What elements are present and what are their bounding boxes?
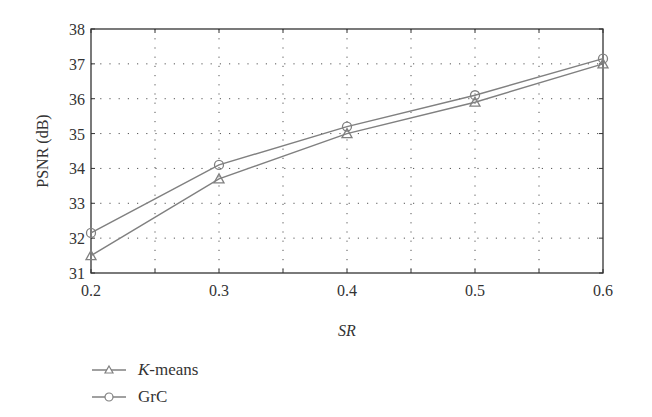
x-tick-label: 0.5 [465, 282, 485, 299]
series-grc [87, 54, 608, 237]
triangle-marker-icon [90, 363, 130, 377]
axis-ticks: 0.20.30.40.50.63132333435363738 [69, 21, 613, 299]
line-chart: 0.20.30.40.50.63132333435363738 SR PSNR … [0, 0, 652, 350]
legend-label-kmeans: K-means [138, 360, 198, 380]
legend: K-means GrC [90, 356, 198, 410]
plot-frame [91, 29, 603, 273]
x-tick-label: 0.6 [593, 282, 613, 299]
legend-item-grc: GrC [90, 383, 198, 410]
x-tick-label: 0.2 [81, 282, 101, 299]
y-tick-label: 35 [69, 126, 85, 143]
y-tick-label: 36 [69, 91, 85, 108]
y-axis-label: PSNR (dB) [34, 114, 52, 187]
legend-label-grc: GrC [138, 387, 167, 407]
x-tick-label: 0.4 [337, 282, 357, 299]
y-tick-label: 33 [69, 195, 85, 212]
y-tick-label: 37 [69, 56, 85, 73]
x-axis-label: SR [338, 322, 356, 339]
x-tick-label: 0.3 [209, 282, 229, 299]
series-k-means [86, 59, 608, 260]
legend-item-kmeans: K-means [90, 356, 198, 383]
y-tick-label: 31 [69, 265, 85, 282]
circle-marker-icon [90, 390, 130, 404]
y-tick-label: 34 [69, 160, 85, 177]
y-tick-label: 38 [69, 21, 85, 38]
y-tick-label: 32 [69, 230, 85, 247]
grid-lines [91, 29, 603, 273]
